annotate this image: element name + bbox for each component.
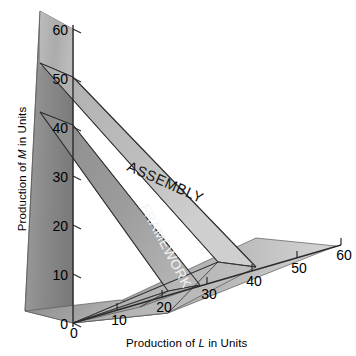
x-tick-label: 60 [336,247,352,263]
y-axis-title: Production of M in Units [16,94,28,244]
y-tick-label: 50 [52,71,68,87]
y-tick-label: 0 [60,316,68,332]
y-axis-ticks [73,29,81,327]
y-axis-title-post: in Units [16,107,28,149]
constraint-plane-plot: 60 50 40 30 20 10 0 0 10 20 30 40 50 60 … [0,0,356,356]
x-axis-title-pre: Production of [126,337,198,349]
y-tick-label: 20 [52,218,68,234]
x-tick-label: 40 [246,273,262,289]
y-tick-label: 40 [52,120,68,136]
x-tick-label: 30 [201,286,217,302]
x-tick-label: 0 [70,325,78,341]
x-tick-label: 20 [156,299,172,315]
y-tick-label: 10 [52,267,68,283]
chart-figure: 60 50 40 30 20 10 0 0 10 20 30 40 50 60 … [0,0,356,356]
y-tick-label: 30 [52,169,68,185]
x-tick-label: 10 [111,312,127,328]
x-tick-label: 50 [291,260,307,276]
x-axis-title-post: in Units [205,337,247,349]
x-axis-title: Production of L in Units [126,337,247,349]
y-tick-label: 60 [52,22,68,38]
y-axis-variable: M [16,149,28,159]
y-axis-title-pre: Production of [16,159,28,231]
